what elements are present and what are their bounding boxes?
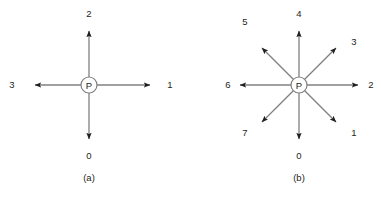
direction-label-1: 1 xyxy=(346,128,362,138)
panel-8-connectivity: P 2 3 4 5 6 7 0 1 (b) xyxy=(190,0,380,199)
center-node-label: P xyxy=(86,80,92,91)
figure-root: P 1 2 3 0 (a) xyxy=(0,0,381,199)
arrow-dir-3 xyxy=(305,48,336,79)
center-node-b: P xyxy=(291,77,307,93)
panel-caption-b: (b) xyxy=(279,172,319,183)
center-node-a: P xyxy=(81,77,97,93)
direction-label-2: 2 xyxy=(81,9,97,19)
direction-label-5: 5 xyxy=(237,17,253,27)
direction-label-0: 0 xyxy=(291,151,307,161)
diagram-b-svg: P xyxy=(190,0,381,199)
arrow-dir-7 xyxy=(262,91,293,122)
direction-label-7: 7 xyxy=(237,128,253,138)
direction-label-0: 0 xyxy=(81,151,97,161)
arrow-dir-1 xyxy=(305,91,336,122)
direction-label-3: 3 xyxy=(346,37,362,47)
direction-label-6: 6 xyxy=(220,80,236,90)
panel-4-connectivity: P 1 2 3 0 (a) xyxy=(0,0,190,199)
direction-label-3: 3 xyxy=(4,80,20,90)
direction-label-4: 4 xyxy=(291,9,307,19)
center-node-label: P xyxy=(296,80,302,91)
arrow-dir-5 xyxy=(262,48,293,79)
direction-label-2: 2 xyxy=(363,80,379,90)
diagram-a-svg: P xyxy=(0,0,190,199)
panel-caption-a: (a) xyxy=(69,172,109,183)
direction-label-1: 1 xyxy=(162,80,178,90)
